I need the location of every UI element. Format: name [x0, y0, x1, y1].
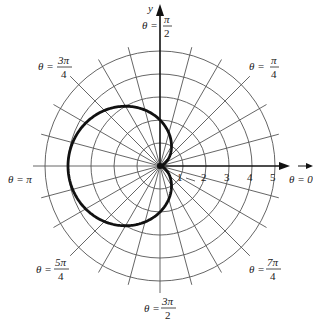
theta-prefix: θ =	[144, 302, 160, 314]
fraction-numerator: 3π	[57, 54, 70, 66]
angle-label-3pi-over-4: θ = 3π 4	[38, 54, 72, 80]
angle-label-3pi-over-2: θ = 3π 2	[144, 295, 176, 321]
y-axis-arrow-icon	[156, 4, 164, 16]
grid-ray	[160, 47, 192, 166]
angle-label-zero: θ = 0	[289, 173, 313, 185]
fraction-denominator: 2	[164, 27, 170, 39]
tick-label-4: 4	[247, 171, 253, 183]
grid-ray	[160, 166, 192, 285]
fraction-denominator: 4	[58, 270, 64, 282]
fraction-numerator: 7π	[267, 256, 279, 268]
angle-label-pi-over-2: θ = π 2	[142, 13, 172, 39]
fraction-denominator: 4	[271, 68, 277, 80]
angle-label-pi-over-4: θ = π 4	[249, 54, 279, 80]
polar-grid-rays	[33, 47, 279, 293]
polar-axis-arrow-icon	[279, 162, 290, 170]
grid-ray	[41, 134, 160, 166]
fraction-numerator: 3π	[161, 295, 174, 307]
theta-prefix: θ =	[142, 19, 158, 31]
fraction-denominator: 4	[270, 270, 276, 282]
angle-label-5pi-over-4: θ = 5π 4	[36, 256, 69, 282]
theta-prefix: θ =	[249, 263, 265, 275]
fraction-numerator: π	[271, 54, 277, 66]
grid-ray	[70, 166, 160, 256]
tick-label-3: 3	[224, 171, 230, 183]
angle-label-pi: θ = π	[8, 173, 32, 185]
tick-label-1: 1	[177, 171, 183, 183]
grid-ray	[160, 105, 267, 167]
theta-prefix: θ =	[36, 263, 52, 275]
polar-graph: y 1 2 3 4 5 θ = π 2 θ = π 4 θ = 3π 4 θ =…	[0, 0, 313, 329]
pole-point	[157, 163, 163, 169]
grid-ray	[70, 76, 160, 166]
grid-ray	[160, 60, 222, 167]
theta-prefix: θ =	[249, 60, 265, 72]
theta-prefix: θ =	[38, 60, 54, 72]
angle-label-7pi-over-4: θ = 7π 4	[249, 256, 281, 282]
tick-leader-line	[186, 178, 195, 181]
tick-label-5: 5	[270, 171, 276, 183]
fraction-denominator: 2	[165, 309, 171, 321]
grid-ray	[160, 166, 222, 273]
grid-ray	[41, 166, 160, 198]
grid-ray	[160, 134, 279, 166]
y-axis-label: y	[147, 2, 153, 14]
theta-zero-arrow-icon	[306, 163, 313, 169]
fraction-numerator: π	[164, 13, 170, 25]
grid-ray	[160, 76, 250, 166]
fraction-denominator: 4	[61, 68, 67, 80]
tick-label-2: 2	[201, 171, 207, 183]
fraction-numerator: 5π	[55, 256, 67, 268]
